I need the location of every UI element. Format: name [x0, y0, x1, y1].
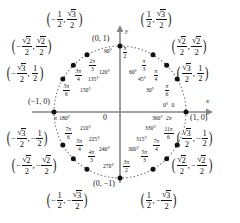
- point-60deg: [151, 52, 156, 57]
- angle-degree-210: 210°: [80, 126, 91, 132]
- point-150deg: [60, 77, 65, 82]
- angle-degree-225: 225°: [89, 137, 100, 143]
- angle-radian-270: 3π2: [122, 160, 131, 173]
- angle-degree-120: 120°: [99, 70, 110, 76]
- coord-label-60: ( 12 , 32 ): [140, 9, 172, 29]
- angle-degree-30: 30°: [146, 88, 154, 94]
- rad-0: 0: [171, 102, 174, 108]
- deg-360: 360°: [152, 115, 163, 121]
- angle-radian-120: 2π3: [88, 59, 97, 72]
- angle-label-0deg: 0° 0: [163, 103, 174, 109]
- angle-radian-240: 4π3: [87, 150, 96, 163]
- angle-label-360deg: 360° 2π: [152, 116, 172, 122]
- point-225deg: [71, 156, 76, 161]
- angle-radian-60: π3: [141, 59, 147, 72]
- coord-label-330: ( 32 , −12 ): [176, 128, 214, 148]
- x-axis-label: x: [206, 98, 209, 105]
- angle-degree-240: 240°: [99, 147, 110, 153]
- angle-label-180deg: π 180°: [54, 116, 70, 122]
- angle-radian-45: π4: [153, 69, 159, 82]
- rad-2pi: 2π: [166, 115, 172, 121]
- deg-0: 0°: [163, 102, 168, 108]
- angle-radian-210: 7π6: [64, 127, 73, 140]
- angle-radian-315: 7π4: [152, 139, 161, 152]
- angle-degree-315: 315°: [136, 137, 147, 143]
- angle-degree-270: 270°: [103, 164, 114, 170]
- point-45deg: [164, 63, 169, 68]
- point-270deg: [118, 176, 123, 181]
- coord-label-45: ( 22 , 22 ): [171, 36, 208, 56]
- coord-label-135: ( −22 , 22 ): [11, 36, 52, 56]
- angle-degree-45: 45°: [138, 77, 146, 83]
- angle-radian-225: 5π4: [75, 139, 84, 152]
- angle-radian-330: 11π6: [163, 127, 174, 140]
- point-120deg: [85, 52, 90, 57]
- angle-degree-60: 60°: [129, 70, 137, 76]
- angle-degree-135: 135°: [88, 77, 99, 83]
- point-210deg: [60, 143, 65, 148]
- coord-label-210: ( −32 , −12 ): [6, 128, 48, 148]
- point-180deg: [52, 110, 57, 115]
- rad-pi: π: [54, 115, 57, 121]
- point-label-top: (0, 1): [92, 35, 109, 43]
- angle-degree-330: 330°: [145, 126, 156, 132]
- point-0deg: [184, 110, 189, 115]
- angle-radian-300: 5π3: [140, 150, 149, 163]
- coord-label-240: ( −12 , −32 ): [46, 190, 88, 210]
- coord-label-315: ( 22 , −22 ): [171, 155, 213, 175]
- point-label-left: (−1, 0): [28, 98, 50, 106]
- angle-radian-30: π6: [164, 84, 170, 97]
- angle-radian-135: 3π4: [74, 69, 83, 82]
- coord-label-300: ( 12 , −32 ): [140, 190, 178, 210]
- angle-radian-150: 5π6: [62, 84, 71, 97]
- angle-degree-90: 90°: [104, 49, 112, 55]
- point-240deg: [85, 167, 90, 172]
- coord-label-225: ( −22 , −22 ): [11, 155, 58, 175]
- point-300deg: [151, 167, 156, 172]
- coord-label-30: ( 32 , 12 ): [176, 63, 209, 83]
- y-axis-label: y: [125, 28, 128, 35]
- angle-radian-90: π2: [122, 46, 128, 59]
- angle-degree-300: 300°: [128, 147, 139, 153]
- point-315deg: [164, 156, 169, 161]
- angle-degree-150: 150°: [80, 88, 91, 94]
- coord-label-120: ( −12 , 32 ): [46, 9, 83, 29]
- unit-circle-figure: [0, 0, 240, 223]
- point-label-bottom: (0, −1): [93, 180, 115, 188]
- coord-label-150: ( −32 , 12 ): [6, 63, 44, 83]
- deg-180: 180°: [59, 115, 70, 121]
- origin-label: 0: [103, 114, 107, 122]
- point-label-right: (1, 0): [190, 114, 207, 122]
